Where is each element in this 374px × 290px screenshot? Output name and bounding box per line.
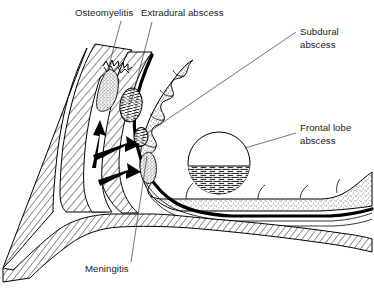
- label-meningitis: Meningitis: [85, 263, 129, 274]
- label-subdural-abscess-line1: Subdural: [300, 26, 339, 37]
- label-extradural-abscess: Extradural abscess: [141, 7, 224, 18]
- label-osteomyelitis: Osteomyelitis: [75, 7, 133, 18]
- medical-diagram-figure: Osteomyelitis Extradural abscess Subdura…: [0, 0, 374, 290]
- sagittal-skull-diagram: Osteomyelitis Extradural abscess Subdura…: [0, 0, 374, 290]
- label-subdural-abscess-line2: abscess: [300, 39, 336, 50]
- label-frontal-lobe-abscess-line2: abscess: [300, 135, 336, 146]
- meningeal-exudate: [140, 152, 156, 183]
- meningitis-shape: [140, 152, 156, 183]
- label-frontal-lobe-abscess-line1: Frontal lobe: [300, 122, 351, 133]
